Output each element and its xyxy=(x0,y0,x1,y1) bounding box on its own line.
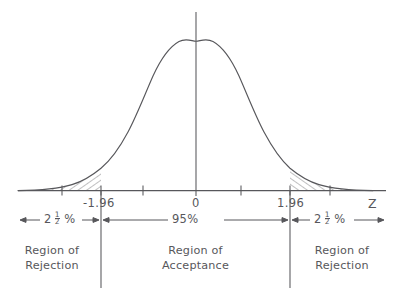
left-pct-denominator: 2 xyxy=(55,218,60,226)
left-pct-sign: % xyxy=(64,212,75,226)
region-center-line1: Region of xyxy=(129,243,262,258)
region-left-line1: Region of xyxy=(10,243,94,258)
region-center-line2: Acceptance xyxy=(129,258,262,273)
tick-label-positive-critical: 1.96 xyxy=(277,196,304,210)
z-axis-label: Z xyxy=(368,196,378,211)
region-right-line1: Region of xyxy=(300,243,384,258)
normal-distribution-figure: -1.96 0 1.96 Z 2 1 2 % 95% 2 1 2 % Regio… xyxy=(0,0,403,295)
left-pct-whole: 2 xyxy=(44,212,52,226)
region-label-acceptance: Region of Acceptance xyxy=(129,243,262,273)
region-left-line2: Rejection xyxy=(10,258,94,273)
right-pct-denominator: 2 xyxy=(325,218,330,226)
tick-label-negative-critical: -1.96 xyxy=(83,196,115,210)
region-label-left-rejection: Region of Rejection xyxy=(10,243,94,273)
tick-label-zero: 0 xyxy=(192,196,200,210)
acceptance-percentage: 95% xyxy=(172,212,198,226)
left-pct-fraction: 1 2 xyxy=(55,212,60,226)
region-right-line2: Rejection xyxy=(300,258,384,273)
right-pct-sign: % xyxy=(334,212,345,226)
region-label-right-rejection: Region of Rejection xyxy=(300,243,384,273)
right-pct-whole: 2 xyxy=(314,212,322,226)
right-tail-percentage: 2 1 2 % xyxy=(314,212,346,226)
right-pct-fraction: 1 2 xyxy=(325,212,330,226)
left-tail-percentage: 2 1 2 % xyxy=(44,212,76,226)
